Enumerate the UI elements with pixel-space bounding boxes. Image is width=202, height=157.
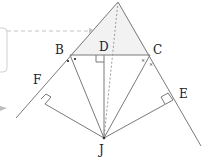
segment-fj (45, 104, 104, 138)
angle-mark-c-outer: × (149, 61, 153, 67)
right-angle-mark-f (41, 94, 51, 104)
label-e: E (179, 87, 188, 101)
label-j: J (97, 143, 104, 157)
right-angle-mark-d (96, 55, 104, 62)
label-c: C (153, 43, 162, 57)
line-ac-extended (118, 2, 201, 146)
label-d: D (99, 40, 109, 54)
angle-mark-b-inner (74, 58, 76, 60)
label-b: B (55, 43, 64, 57)
line-ab-extended (16, 2, 118, 118)
angle-mark-c-inner: × (141, 57, 145, 63)
diagram-canvas: × × B C D E F J (0, 0, 202, 157)
callout-box (0, 28, 7, 72)
triangle-abc-fill (70, 2, 150, 55)
angle-mark-b-outer (67, 60, 69, 62)
label-f: F (33, 73, 41, 87)
segment-bj (70, 55, 104, 138)
point-j (103, 137, 106, 140)
